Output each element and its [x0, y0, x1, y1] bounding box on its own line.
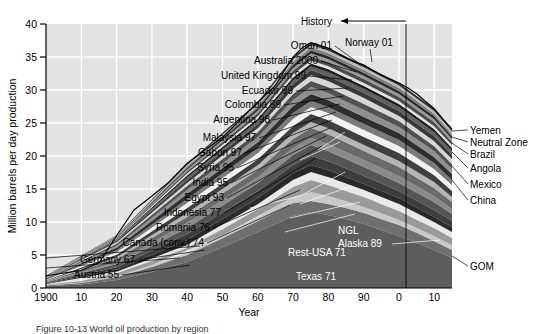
x-tick-label: 20: [111, 291, 123, 303]
label-gabon: Gabon 97: [198, 147, 242, 158]
label-yemen: Yemen: [470, 125, 501, 136]
history-label: History: [301, 16, 332, 27]
y-tick-label: 30: [25, 84, 37, 96]
label-germany: Germany 67: [80, 254, 135, 265]
y-tick-label: 15: [25, 183, 37, 195]
label-ngl: NGL: [338, 225, 359, 236]
label-colombia: Colombia 99: [225, 99, 282, 110]
y-tick-label: 25: [25, 117, 37, 129]
y-tick-label: 10: [25, 216, 37, 228]
x-tick-label: 40: [181, 291, 193, 303]
figure-oil-production-chart: 40 35 30 25 20 15 10 5 0 1900 10 20 30 4…: [0, 0, 536, 334]
label-angola: Angola: [470, 163, 502, 174]
label-neutral-zone: Neutral Zone: [470, 137, 528, 148]
y-tick-label: 5: [31, 249, 37, 261]
label-austria: Austria 55: [74, 269, 119, 280]
label-romania: Romania 76: [156, 222, 210, 233]
label-brazil: Brazil: [470, 149, 495, 160]
label-united-kingdom: United Kingdom 99: [221, 70, 306, 81]
x-tick-label: 70: [287, 291, 299, 303]
label-argentina: Argentina 98: [213, 114, 270, 125]
x-tick-label: 50: [217, 291, 229, 303]
x-tick-label: 30: [146, 291, 158, 303]
x-axis-title: Year: [238, 306, 260, 318]
label-syria: Syria 95: [197, 162, 234, 173]
figure-caption: Figure 10-13 World oil production by reg…: [36, 324, 208, 334]
y-tick-label: 40: [25, 18, 37, 30]
label-egypt: Egypt 93: [185, 192, 225, 203]
label-malaysia: Malaysia 97: [203, 132, 257, 143]
label-norway: Norway 01: [345, 37, 393, 48]
x-tick-label: 80: [323, 291, 335, 303]
y-tick-label: 35: [25, 51, 37, 63]
x-tick-label: 90: [358, 291, 370, 303]
label-indonesia: Indonesia 77: [164, 207, 222, 218]
x-tick-label: 0: [396, 291, 402, 303]
x-tick-label: 10: [428, 291, 440, 303]
label-india: India 95: [192, 177, 228, 188]
label-australia: Australia 2000: [254, 55, 318, 66]
x-tick-label: 60: [252, 291, 264, 303]
y-tick-label: 20: [25, 150, 37, 162]
label-gom: GOM: [470, 261, 494, 272]
label-mexico: Mexico: [470, 179, 502, 190]
label-rest-usa: Rest-USA 71: [288, 247, 346, 258]
x-tick-label: 1900: [34, 291, 58, 303]
label-china: China: [470, 195, 497, 206]
label-texas: Texas 71: [296, 271, 336, 282]
label-ecuador: Ecuador 99: [242, 85, 294, 96]
y-axis-title: Million barrels per day production: [6, 79, 18, 234]
x-tick-label: 10: [75, 291, 87, 303]
label-canada: Canada (conv.) 74: [122, 237, 204, 248]
label-oman: Oman 01: [291, 40, 333, 51]
plot-area: [46, 24, 452, 288]
